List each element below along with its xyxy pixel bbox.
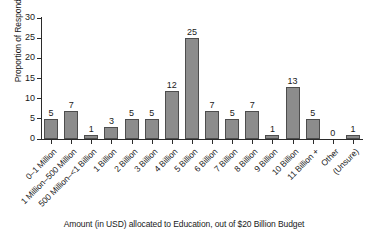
- y-tick-mark: [37, 118, 41, 119]
- x-tick-mark: [353, 140, 354, 144]
- x-tick-mark: [91, 140, 92, 144]
- bar: [185, 38, 199, 139]
- bar: [84, 135, 98, 139]
- x-tick-mark: [313, 140, 314, 144]
- x-tick-mark: [51, 140, 52, 144]
- bar: [225, 119, 239, 139]
- y-tick-mark: [37, 18, 41, 19]
- x-tick-mark: [252, 140, 253, 144]
- x-axis-line: [41, 139, 363, 140]
- bar: [265, 135, 279, 139]
- y-tick-label: 0: [30, 133, 35, 144]
- bar-value-label: 5: [138, 108, 166, 118]
- y-tick-mark: [37, 78, 41, 79]
- bar: [125, 119, 139, 139]
- bar: [64, 111, 78, 139]
- bar-value-label: 25: [178, 27, 206, 37]
- bar: [205, 111, 219, 139]
- bar: [286, 87, 300, 139]
- y-tick-label: 30: [25, 12, 35, 23]
- bar-value-label: 1: [339, 124, 367, 134]
- y-tick-mark: [37, 38, 41, 39]
- y-tick-mark: [37, 139, 41, 140]
- y-tick-label: 5: [30, 113, 35, 124]
- bar: [306, 119, 320, 139]
- x-tick-mark: [272, 140, 273, 144]
- bar-value-label: 1: [258, 124, 286, 134]
- bar: [346, 135, 360, 139]
- bar-value-label: 7: [57, 100, 85, 110]
- bar: [165, 91, 179, 139]
- x-tick-mark: [212, 140, 213, 144]
- bar-value-label: 13: [279, 76, 307, 86]
- y-axis-line: [41, 17, 42, 140]
- bar: [44, 119, 58, 139]
- x-axis-label: Amount (in USD) allocated to Education, …: [0, 219, 368, 229]
- y-tick-label: 25: [25, 32, 35, 43]
- y-tick-label: 15: [25, 73, 35, 84]
- x-tick-mark: [71, 140, 72, 144]
- x-tick-mark: [152, 140, 153, 144]
- bar-value-label: 7: [238, 100, 266, 110]
- x-tick-mark: [132, 140, 133, 144]
- bar-chart: Proportion of Respondents 051015202530 5…: [0, 0, 368, 237]
- x-tick-mark: [111, 140, 112, 144]
- x-tick-mark: [172, 140, 173, 144]
- bar-value-label: 5: [299, 108, 327, 118]
- x-tick-mark: [232, 140, 233, 144]
- y-tick-mark: [37, 98, 41, 99]
- bar-value-label: 12: [158, 80, 186, 90]
- x-tick-mark: [333, 140, 334, 144]
- bar: [104, 127, 118, 139]
- bar: [245, 111, 259, 139]
- x-tick-mark: [293, 140, 294, 144]
- y-axis-label: Proportion of Respondents: [13, 0, 23, 103]
- x-tick-mark: [192, 140, 193, 144]
- y-tick-mark: [37, 58, 41, 59]
- bar: [145, 119, 159, 139]
- y-tick-label: 20: [25, 52, 35, 63]
- y-tick-label: 10: [25, 93, 35, 104]
